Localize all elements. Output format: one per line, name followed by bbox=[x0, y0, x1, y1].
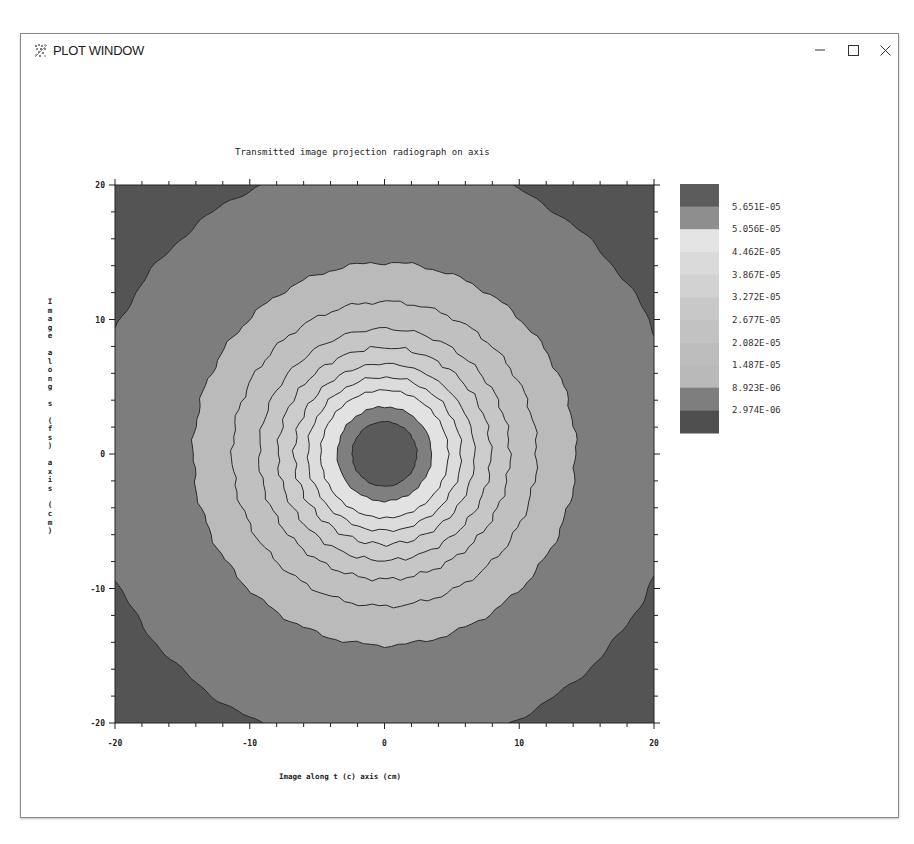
svg-text:): ) bbox=[48, 441, 53, 450]
colorbar-band bbox=[680, 252, 719, 275]
colorbar-level-label: 2.974E-06 bbox=[732, 405, 781, 415]
colorbar-legend: 5.651E-055.056E-054.462E-053.867E-053.27… bbox=[680, 184, 781, 434]
colorbar-level-label: 8.923E-06 bbox=[732, 383, 781, 393]
colorbar-band bbox=[680, 388, 719, 411]
colorbar-band bbox=[680, 297, 719, 320]
colorbar-band bbox=[680, 365, 719, 388]
colorbar-level-label: 5.651E-05 bbox=[732, 202, 781, 212]
colorbar-level-label: 3.867E-05 bbox=[732, 270, 781, 280]
contour-plot: -20-1001020-20-1001020 5.651E-055.056E-0… bbox=[21, 34, 898, 817]
svg-text:g: g bbox=[48, 382, 53, 391]
colorbar-level-label: 2.677E-05 bbox=[732, 315, 781, 325]
x-tick-label: 0 bbox=[382, 739, 387, 748]
colorbar-band bbox=[680, 320, 719, 343]
x-tick-label: -10 bbox=[243, 739, 258, 748]
y-tick-label: -10 bbox=[91, 585, 106, 594]
colorbar-level-label: 4.462E-05 bbox=[732, 247, 781, 257]
colorbar-band bbox=[680, 184, 719, 207]
plot-window: PLOT WINDOW Transmitted image projection… bbox=[20, 33, 899, 818]
colorbar-band bbox=[680, 207, 719, 230]
x-tick-label: 20 bbox=[649, 739, 659, 748]
colorbar-level-label: 5.056E-05 bbox=[732, 224, 781, 234]
colorbar-band bbox=[680, 229, 719, 252]
y-tick-label: 20 bbox=[95, 181, 105, 190]
x-axis-label: Image along t (c) axis (cm) bbox=[279, 772, 401, 781]
svg-text:e: e bbox=[48, 331, 53, 340]
svg-text:s: s bbox=[48, 484, 53, 493]
y-tick-label: 10 bbox=[95, 316, 105, 325]
colorbar-band bbox=[680, 410, 719, 433]
x-tick-label: -20 bbox=[108, 739, 123, 748]
y-tick-label: 0 bbox=[100, 450, 105, 459]
colorbar-band bbox=[680, 343, 719, 366]
svg-text:s: s bbox=[48, 399, 53, 408]
y-tick-label: -20 bbox=[91, 719, 106, 728]
y-axis-label: Imagealongs(fs)axis(cm) bbox=[48, 297, 53, 535]
colorbar-level-label: 2.082E-05 bbox=[732, 338, 781, 348]
svg-text:): ) bbox=[48, 526, 53, 535]
colorbar-level-label: 1.487E-05 bbox=[732, 360, 781, 370]
x-tick-label: 10 bbox=[514, 739, 524, 748]
colorbar-level-label: 3.272E-05 bbox=[732, 292, 781, 302]
colorbar-band bbox=[680, 275, 719, 298]
